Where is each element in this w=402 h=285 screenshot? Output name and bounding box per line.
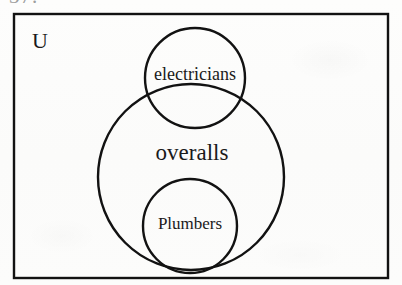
set-label-plumbers: Plumbers [158,214,222,233]
set-label-electricians: electricians [154,64,236,84]
set-circle-overalls [98,84,284,270]
universal-set-label: U [32,28,48,53]
diagram-page: 37. U electricians overalls Plumbers [0,0,402,285]
euler-diagram-figure: U electricians overalls Plumbers [0,0,402,285]
set-label-overalls: overalls [156,140,229,165]
